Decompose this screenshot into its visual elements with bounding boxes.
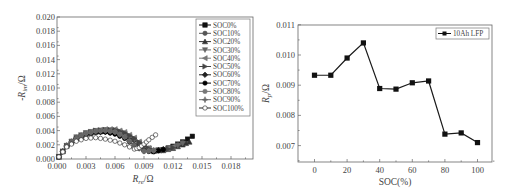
y-tick-label: 0.010 [36, 83, 55, 93]
x-axis-label: SOC(%) [379, 177, 412, 188]
x-tick-label: 0.000 [47, 161, 66, 171]
data-point [127, 145, 131, 149]
legend-label: SOC10% [213, 30, 240, 38]
x-tick-label: 100 [471, 165, 484, 175]
x-tick-label: 0.006 [105, 161, 124, 171]
rp-vs-soc-chart: 0.0070.0080.0090.0100.011020406080100SOC… [260, 0, 507, 195]
data-point [69, 142, 73, 146]
data-point [89, 136, 93, 140]
data-point [377, 86, 382, 91]
x-tick-label: 0.003 [76, 161, 95, 171]
x-tick-label: 0.009 [134, 161, 153, 171]
y-tick-label: 0.020 [36, 12, 55, 22]
y-tick-label: 0.014 [36, 55, 56, 65]
legend-label: SOC40% [213, 55, 240, 63]
legend-marker [203, 31, 207, 35]
data-point [118, 141, 122, 145]
y-tick-label: 0.012 [36, 69, 55, 79]
legend-label: SOC90% [213, 96, 240, 104]
data-point [426, 78, 431, 83]
legend-label: SOC50% [213, 63, 240, 71]
x-axis-label: Rre/Ω [131, 174, 153, 186]
legend-label: SOC70% [213, 80, 240, 88]
nyquist-chart: 0.0000.0020.0040.0060.0080.0100.0120.014… [0, 0, 260, 195]
data-point [64, 145, 68, 149]
legend-label: SOC30% [213, 47, 240, 55]
legend-marker [443, 32, 447, 36]
data-point [190, 134, 194, 138]
y-tick-label: 0.002 [36, 140, 55, 150]
legend: SOC0%SOC10%SOC20%SOC30%SOC40%SOC50%SOC60… [196, 19, 250, 116]
data-point [153, 133, 157, 137]
data-point [98, 136, 102, 140]
y-tick-label: 0.008 [36, 97, 55, 107]
x-tick-label: 20 [343, 165, 352, 175]
y-axis-label: -Rim/Ω [17, 75, 29, 101]
y-tick-label: 0.010 [276, 50, 295, 60]
y-axis-label: Rp/Ω [261, 84, 273, 104]
legend-label: SOC20% [213, 38, 240, 46]
y-tick-label: 0.006 [36, 111, 55, 121]
legend: 10Ah LFP [436, 28, 489, 39]
y-tick-label: 0.007 [276, 141, 295, 151]
y-tick-label: 0.004 [36, 126, 56, 136]
data-point [79, 138, 83, 142]
legend-label: SOC0% [213, 22, 237, 30]
series-soc100 [57, 133, 158, 159]
data-point [84, 136, 88, 140]
data-point [93, 136, 97, 140]
y-tick-label: 0.011 [276, 20, 295, 30]
x-tick-label: 0.018 [221, 161, 240, 171]
legend-marker [203, 106, 207, 110]
legend-marker [203, 23, 207, 27]
y-tick-label: 0.008 [276, 110, 295, 120]
data-point [122, 143, 126, 147]
data-point [74, 139, 78, 143]
data-point [156, 149, 160, 153]
data-point [361, 40, 366, 45]
data-point [103, 137, 107, 141]
data-point [108, 138, 112, 142]
data-point [328, 73, 333, 78]
legend-label: SOC100% [213, 105, 244, 113]
data-point [410, 80, 415, 85]
data-point [113, 139, 117, 143]
x-tick-label: 40 [375, 165, 384, 175]
x-tick-label: 0 [312, 165, 316, 175]
data-point [345, 55, 350, 60]
data-point [312, 73, 317, 78]
data-point [161, 148, 165, 152]
data-point [459, 130, 464, 135]
data-point [61, 150, 65, 154]
data-point [475, 140, 480, 145]
y-tick-label: 0.009 [276, 80, 295, 90]
data-point [442, 132, 447, 137]
legend-label: SOC60% [213, 71, 240, 79]
nyquist-chart-panel: 0.0000.0020.0040.0060.0080.0100.0120.014… [0, 0, 260, 195]
legend-label: SOC80% [213, 88, 240, 96]
y-tick-label: 0.016 [36, 40, 55, 50]
legend-marker [203, 89, 207, 93]
data-point [393, 87, 398, 92]
series-10ah-lfp [312, 40, 480, 145]
y-tick-label: 0.018 [36, 26, 55, 36]
x-tick-label: 80 [441, 165, 450, 175]
x-tick-label: 60 [408, 165, 417, 175]
plot-frame [298, 25, 492, 162]
legend-marker [203, 81, 207, 85]
data-point [57, 155, 61, 159]
x-tick-label: 0.012 [163, 161, 182, 171]
rp-vs-soc-chart-panel: 0.0070.0080.0090.0100.011020406080100SOC… [260, 0, 507, 195]
x-tick-label: 0.015 [192, 161, 211, 171]
legend-label: 10Ah LFP [453, 30, 483, 38]
